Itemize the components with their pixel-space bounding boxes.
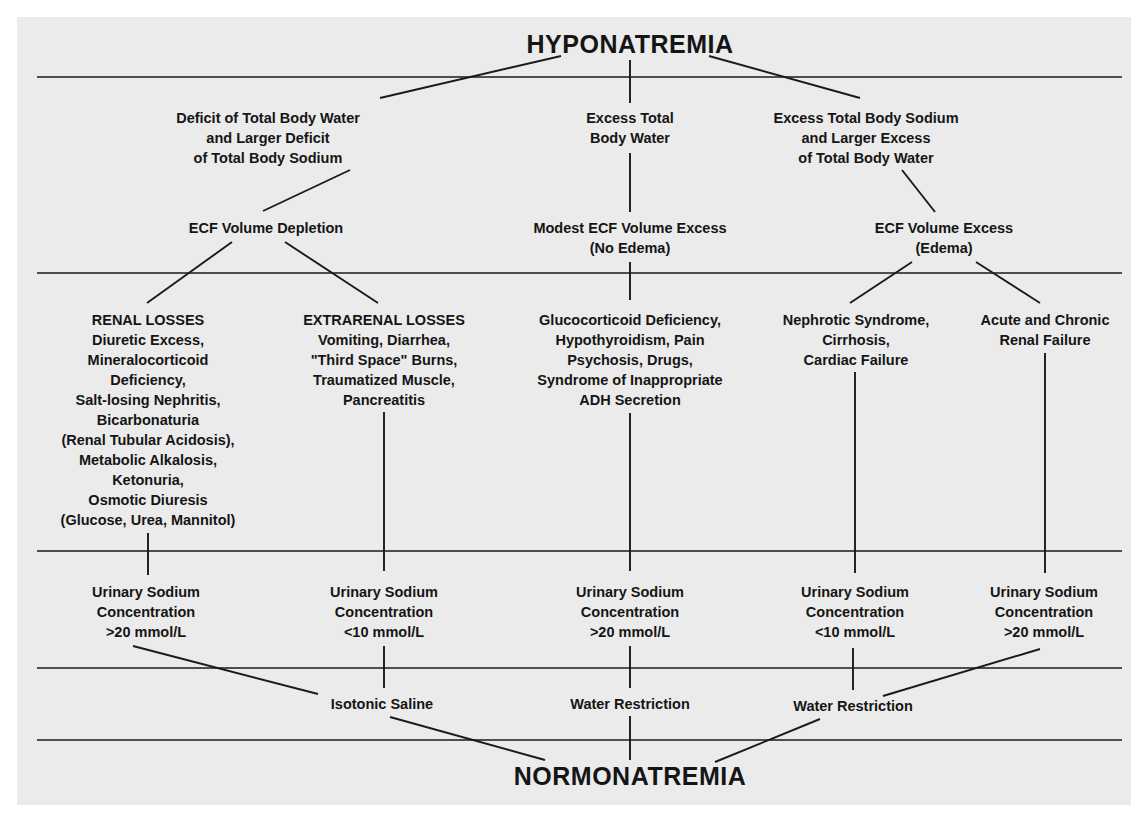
urinary-sodium-2: Urinary Sodium Concentration <10 mmol/L (330, 582, 438, 642)
title-hyponatremia: HYPONATREMIA (527, 30, 734, 58)
cause-renal-losses: RENAL LOSSES Diuretic Excess, Mineraloco… (61, 310, 236, 530)
cause-glucocorticoid-deficiency: Glucocorticoid Deficiency, Hypothyroidis… (537, 310, 722, 410)
title-normonatremia: NORMONATREMIA (514, 762, 746, 790)
category-deficit: Deficit of Total Body Water and Larger D… (176, 108, 360, 168)
cause-nephrotic-syndrome: Nephrotic Syndrome, Cirrhosis, Cardiac F… (783, 310, 930, 370)
urinary-sodium-4: Urinary Sodium Concentration <10 mmol/L (801, 582, 909, 642)
treatment-water-restriction-2: Water Restriction (793, 696, 913, 716)
state-ecf-excess-edema: ECF Volume Excess (Edema) (875, 218, 1013, 258)
category-excess-water: Excess Total Body Water (586, 108, 674, 148)
state-ecf-depletion: ECF Volume Depletion (189, 218, 343, 238)
category-excess-sodium: Excess Total Body Sodium and Larger Exce… (773, 108, 958, 168)
urinary-sodium-1: Urinary Sodium Concentration >20 mmol/L (92, 582, 200, 642)
treatment-isotonic-saline: Isotonic Saline (331, 694, 433, 714)
urinary-sodium-5: Urinary Sodium Concentration >20 mmol/L (990, 582, 1098, 642)
state-modest-ecf-excess: Modest ECF Volume Excess (No Edema) (533, 218, 726, 258)
cause-extrarenal-losses: EXTRARENAL LOSSES Vomiting, Diarrhea, "T… (303, 310, 465, 410)
urinary-sodium-3: Urinary Sodium Concentration >20 mmol/L (576, 582, 684, 642)
treatment-water-restriction-1: Water Restriction (570, 694, 690, 714)
cause-renal-failure: Acute and Chronic Renal Failure (981, 310, 1110, 350)
